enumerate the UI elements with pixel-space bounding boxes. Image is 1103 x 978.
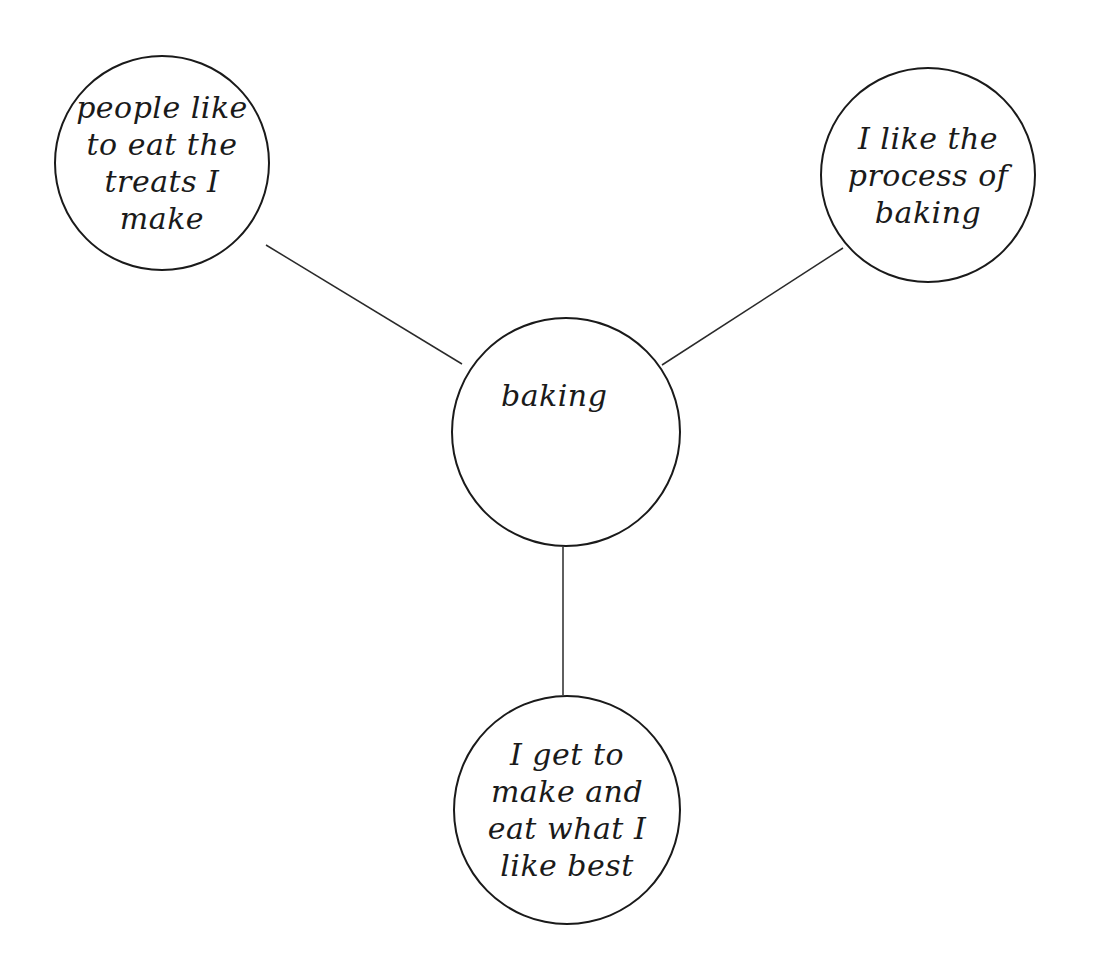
- connector-top-left: [266, 245, 462, 364]
- node-top-right: I like the process of baking: [820, 67, 1036, 283]
- node-label-top-right: I like the process of baking: [848, 120, 1009, 231]
- node-label-center: baking: [501, 377, 607, 414]
- node-top-left: people like to eat the treats I make: [54, 55, 270, 271]
- node-label-bottom: I get to make and eat what I like best: [488, 736, 647, 884]
- node-center: baking: [451, 317, 681, 547]
- node-bottom: I get to make and eat what I like best: [453, 695, 681, 925]
- connector-top-right: [662, 248, 843, 365]
- node-label-top-left: people like to eat the treats I make: [76, 89, 248, 237]
- mind-map-canvas: people like to eat the treats I make I l…: [0, 0, 1103, 978]
